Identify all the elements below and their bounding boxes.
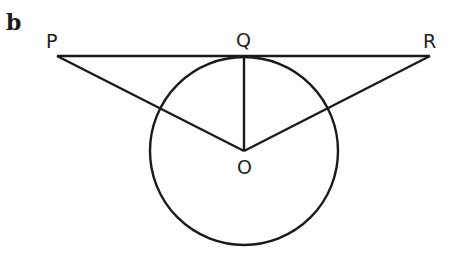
point-label-p: P: [46, 30, 57, 52]
point-label-o: O: [237, 156, 252, 178]
point-label-r: R: [423, 30, 436, 52]
diagram-canvas: b P Q R O: [0, 0, 456, 265]
geometry-figure: b P Q R O: [0, 0, 456, 265]
point-label-q: Q: [236, 29, 251, 51]
part-label: b: [6, 9, 21, 35]
